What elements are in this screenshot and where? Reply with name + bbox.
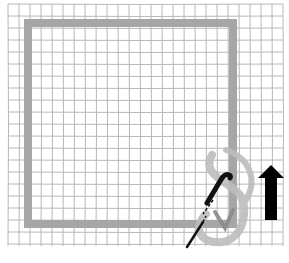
square-outline bbox=[28, 23, 233, 224]
stitch-diagram bbox=[0, 0, 289, 263]
